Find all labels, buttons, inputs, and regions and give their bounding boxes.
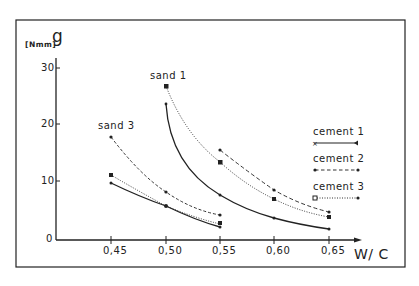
sand3-cement3-line (111, 175, 220, 224)
legend-cement2-sample (313, 168, 359, 171)
sand1-cement1-line (166, 104, 329, 229)
x-axis-label: W/ C (354, 246, 389, 262)
x-tick-060: 0,60 (266, 245, 290, 256)
legend-cement1-sample: × (312, 140, 358, 148)
annotation-sand1: sand 1 (150, 70, 187, 81)
sand3-markers (109, 135, 222, 228)
sand3-cement2-line (111, 137, 220, 215)
y-tick-10: 10 (41, 175, 55, 186)
x-tick-055: 0,55 (212, 245, 236, 256)
svg-text:×: × (312, 140, 318, 148)
x-axis-arrow (354, 238, 362, 243)
x-tick-045: 0,45 (103, 245, 127, 256)
legend-cement3-label: cement 3 (313, 181, 364, 192)
y-tick-20: 20 (41, 118, 55, 129)
y-tick-30: 30 (41, 62, 55, 73)
annotation-sand3: sand 3 (98, 120, 135, 131)
y-tick-0: 0 (46, 233, 53, 244)
legend-cement1-label: cement 1 (313, 126, 364, 137)
sand1-cement3-line (166, 86, 329, 217)
legend-cement2-label: cement 2 (313, 153, 364, 164)
legend-cement3-sample (313, 196, 360, 200)
x-tick-065: 0,65 (321, 245, 345, 256)
x-tick-050: 0,50 (158, 245, 182, 256)
y-axis-label: g (52, 26, 63, 46)
